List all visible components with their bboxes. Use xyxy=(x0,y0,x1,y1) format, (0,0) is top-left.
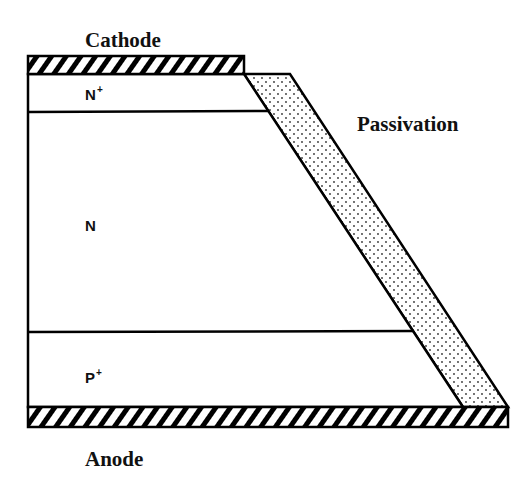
region-p-plus-name: P xyxy=(85,369,95,386)
passivation-label: Passivation xyxy=(357,112,459,136)
anode-label: Anode xyxy=(85,447,143,471)
diode-cross-section-diagram: Cathode Anode Passivation N + N P + xyxy=(0,0,532,500)
anode-contact xyxy=(28,407,508,427)
cathode-contact xyxy=(28,56,244,74)
region-label-n: N xyxy=(85,217,96,234)
region-p-plus-superscript: + xyxy=(96,367,102,378)
n-plus-n-boundary xyxy=(28,111,269,112)
cathode-label: Cathode xyxy=(85,28,161,52)
region-n-name: N xyxy=(85,217,96,234)
region-n-plus-superscript: + xyxy=(97,84,103,95)
region-n-plus-name: N xyxy=(85,86,96,103)
n-p-plus-boundary xyxy=(28,331,414,332)
